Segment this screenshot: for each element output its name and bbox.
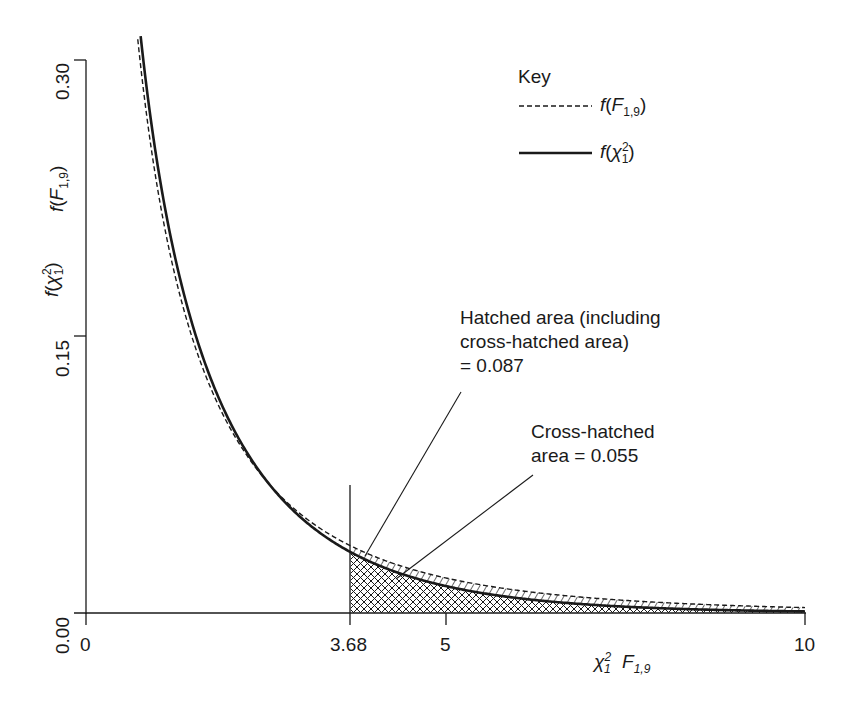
legend-F-sub: 1,9	[623, 105, 640, 119]
x-axis-label: χ21 F1,9	[594, 650, 650, 677]
y-label-F-f: f	[46, 207, 67, 212]
hatched-leader-line	[365, 392, 461, 556]
y-label-chi-f: f	[41, 292, 62, 297]
x-label-chi-var: χ	[594, 651, 604, 672]
y-tick-label-000: 0.00	[52, 617, 74, 654]
legend-F-f: f	[600, 94, 605, 115]
y-axis-label-F: f(F1,9)	[46, 166, 71, 212]
x-label-F-sub: 1,9	[634, 662, 651, 676]
x-tick-label-5: 5	[440, 634, 451, 657]
y-tick-label-015: 0.15	[52, 340, 74, 377]
legend-chi-var: χ	[612, 141, 622, 162]
legend-chi-sub: 1	[622, 152, 629, 166]
hatched-annotation: Hatched area (including cross-hatched ar…	[460, 306, 661, 378]
hatched-annotation-line2: cross-hatched area)	[460, 330, 661, 354]
x-label-chi-sub: 1	[604, 662, 611, 676]
y-label-F-var: F	[46, 189, 67, 201]
legend-label-chi: f(χ21)	[600, 140, 635, 167]
y-label-chi-var: χ	[41, 275, 62, 285]
y-label-chi-sub: 1	[52, 269, 66, 276]
legend-label-F: f(F1,9)	[600, 94, 646, 119]
y-tick-label-030: 0.30	[52, 63, 74, 100]
legend-title: Key	[518, 66, 551, 89]
cross-hatched-leader-line	[396, 475, 533, 579]
x-tick-label-10: 10	[794, 634, 815, 657]
y-axis-label-chi: f(χ21)	[40, 262, 66, 297]
hatched-annotation-line1: Hatched area (including	[460, 306, 661, 330]
cross-hatched-annotation-line2: area = 0.055	[531, 444, 655, 468]
hatched-annotation-line3: = 0.087	[460, 354, 661, 378]
chart-plot-area	[0, 0, 854, 715]
legend-F-var: F	[612, 94, 624, 115]
x-tick-label-368: 3.68	[330, 634, 367, 657]
x-label-F-var: F	[622, 651, 634, 672]
cross-hatched-annotation: Cross-hatched area = 0.055	[531, 420, 655, 468]
legend-chi-f: f	[600, 141, 605, 162]
y-label-F-sub: 1,9	[57, 172, 71, 189]
x-tick-label-0: 0	[80, 634, 91, 657]
cross-hatched-annotation-line1: Cross-hatched	[531, 420, 655, 444]
